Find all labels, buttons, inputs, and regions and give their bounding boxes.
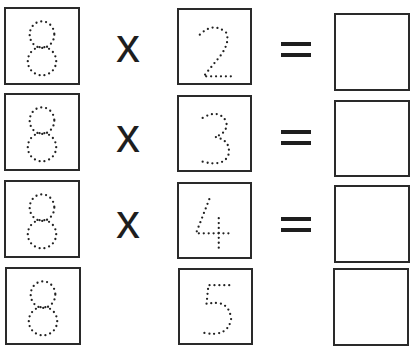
dotted-digit-8-icon — [6, 95, 78, 169]
times-sign: x — [108, 112, 148, 160]
answer-box-row2[interactable] — [334, 100, 410, 177]
multiplier-box-row1 — [177, 8, 252, 85]
equals-sign — [281, 42, 311, 58]
dotted-digit-3-icon — [179, 97, 250, 170]
dotted-digit-8-icon — [6, 182, 78, 256]
times-sign: x — [108, 198, 148, 246]
multiplicand-box-row1 — [4, 7, 80, 85]
multiplier-box-row3 — [177, 182, 252, 259]
multiplier-box-row2 — [177, 95, 252, 172]
equals-sign — [281, 217, 311, 233]
answer-box-row4[interactable] — [333, 268, 409, 346]
dotted-digit-4-icon — [179, 184, 250, 257]
dotted-digit-5-icon — [180, 270, 251, 343]
dotted-digit-2-icon — [179, 10, 250, 83]
multiplier-box-row4 — [178, 268, 253, 345]
answer-box-row1[interactable] — [334, 13, 410, 91]
dotted-digit-8-icon — [6, 9, 78, 83]
multiplicand-box-row4 — [5, 267, 81, 345]
multiplicand-box-row3 — [4, 180, 80, 258]
equals-sign — [281, 130, 311, 146]
multiplicand-box-row2 — [4, 93, 80, 171]
dotted-digit-8-icon — [7, 269, 79, 343]
answer-box-row3[interactable] — [334, 185, 410, 263]
times-sign: x — [108, 22, 148, 70]
